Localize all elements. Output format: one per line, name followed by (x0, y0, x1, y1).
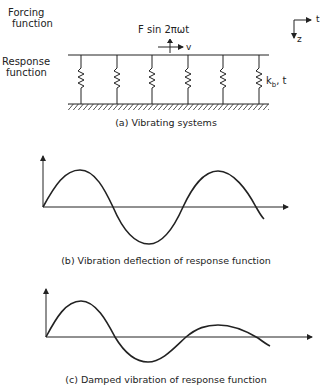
vibration-plot (43, 156, 288, 244)
response-function-label: Response function (2, 56, 50, 78)
ground-hatch (68, 104, 269, 110)
response-label-line2: function (6, 67, 50, 78)
axis-t-label: t (316, 14, 320, 25)
damped-sine-curve (46, 301, 270, 362)
damped-vibration-plot (46, 289, 312, 362)
velocity-label: v (186, 42, 191, 53)
spring-3 (149, 55, 155, 104)
spring-5 (220, 55, 226, 104)
forcing-label-line1: Forcing (8, 7, 53, 18)
axis-z-label: z (297, 34, 302, 45)
spring-1 (78, 55, 84, 104)
vibrating-system (68, 20, 311, 110)
caption-c: (c) Damped vibration of response functio… (0, 374, 332, 385)
spring-2 (114, 55, 120, 104)
forcing-function-label: Forcing function (8, 7, 53, 29)
response-label-line1: Response (2, 56, 50, 67)
force-arrows-icon (158, 39, 183, 53)
spring-tail: , t (276, 75, 286, 86)
springs (78, 55, 262, 104)
forcing-label-line2: function (12, 18, 53, 29)
spring-constant-label: kb, t (266, 75, 287, 91)
caption-b: (b) Vibration deflection of response fun… (0, 255, 332, 266)
spring-6 (256, 55, 262, 104)
spring-4 (185, 55, 191, 104)
caption-a: (a) Vibrating systems (0, 117, 332, 128)
force-expression: F sin 2πωt (138, 24, 189, 35)
